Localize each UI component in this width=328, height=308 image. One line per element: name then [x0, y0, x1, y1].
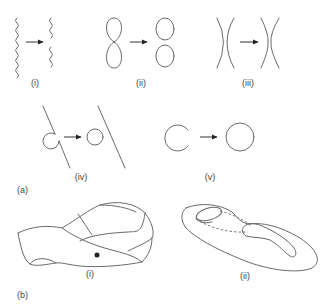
diagram-a-iv: (iv) [43, 106, 125, 182]
panel-label-b: (b) [17, 290, 28, 300]
label-b-i: (i) [86, 269, 94, 279]
label-a-ii: (ii) [136, 78, 146, 88]
diagram-a-v: (v) [165, 123, 254, 182]
label-b-ii: (ii) [240, 271, 250, 281]
diagram-a-ii: (ii) [107, 18, 175, 88]
diagram-b-i: (i) [18, 203, 153, 279]
diagram-b-ii: (ii) [182, 205, 317, 281]
figure-canvas: (i) (ii) (iii) (iv) (v) (a) [0, 0, 328, 308]
diagram-a-i: (i) [16, 18, 53, 88]
label-a-iii: (iii) [242, 78, 254, 88]
label-a-iv: (iv) [75, 172, 88, 182]
label-a-i: (i) [31, 78, 39, 88]
panel-label-a: (a) [17, 185, 28, 195]
label-a-v: (v) [205, 172, 216, 182]
marked-point-icon [95, 253, 100, 258]
diagram-a-iii: (iii) [217, 18, 279, 88]
